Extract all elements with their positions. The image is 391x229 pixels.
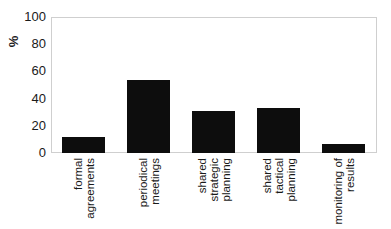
y-tick-label: 100 xyxy=(16,9,46,24)
y-tick-label: 20 xyxy=(16,118,46,133)
x-tick-label: monitoring of results xyxy=(332,158,356,224)
bar xyxy=(127,80,170,153)
bar xyxy=(192,111,235,153)
x-tick-label: periodical meetings xyxy=(137,158,161,207)
x-tick-label: shared tactical planning xyxy=(261,158,297,201)
bar xyxy=(322,144,365,153)
y-tick-label: 60 xyxy=(16,63,46,78)
y-tick-label: 40 xyxy=(16,91,46,106)
bar xyxy=(62,137,105,153)
y-tick-label: 0 xyxy=(16,145,46,160)
x-tick-label: formal agreements xyxy=(72,158,96,219)
bar xyxy=(257,108,300,153)
y-tick-label: 80 xyxy=(16,36,46,51)
bar-chart: % 020406080100 formal agreementsperiodic… xyxy=(0,0,391,229)
x-tick-label: shared strategic planning xyxy=(196,158,232,201)
